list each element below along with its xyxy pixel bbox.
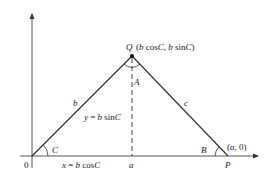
label-foot-a: a [129,160,134,170]
label-base-x: x = b cosC [61,160,101,170]
triangle-diagram: Q (b cosC, b sinC) A b c y = b sinC C B … [0,0,273,179]
label-height: y = b sinC [83,112,122,122]
label-p-coords: (a, 0) [227,142,247,152]
side-b [32,56,132,156]
label-p: P [224,160,231,170]
label-angle-b: B [201,145,207,155]
label-angle-c: C [52,145,59,155]
point-q [130,54,134,58]
label-origin: 0 [24,160,29,170]
label-side-b: b [73,98,78,108]
label-side-c: c [184,98,188,108]
label-angle-a: A [133,77,140,87]
side-c [132,56,228,156]
angle-b-arc [215,147,219,156]
label-q-coords: (b cosC, b sinC) [136,42,195,52]
label-q: Q [126,42,133,52]
angle-c-arc [43,145,48,156]
